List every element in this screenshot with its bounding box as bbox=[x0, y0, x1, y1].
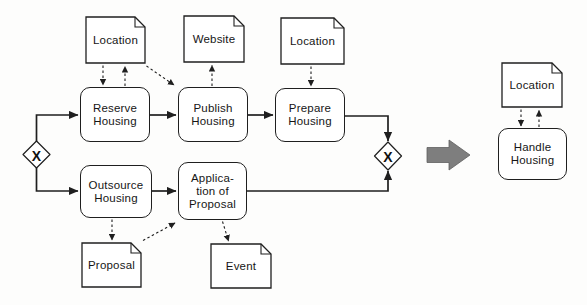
document-label: Website bbox=[183, 15, 245, 63]
task-prepare-housing: Prepare Housing bbox=[275, 88, 345, 142]
task-label-line: Housing bbox=[288, 115, 332, 128]
task-outsource-housing: Outsource Housing bbox=[80, 165, 152, 218]
flow-application-to-join bbox=[247, 171, 388, 191]
task-label-line: Outsource bbox=[89, 179, 144, 192]
document-website: Website bbox=[183, 15, 245, 63]
task-reserve-housing: Reserve Housing bbox=[80, 87, 150, 142]
document-location-top-left: Location bbox=[85, 16, 146, 64]
task-label-line: Housing bbox=[94, 192, 138, 205]
task-handle-housing: Handle Housing bbox=[498, 128, 567, 180]
document-location-top-right: Location bbox=[280, 17, 345, 65]
assoc-proposal-to-application bbox=[143, 223, 175, 241]
diagram-canvas: X X Location Website Location Proposal bbox=[0, 0, 587, 305]
document-label: Location bbox=[501, 62, 563, 108]
document-location-result: Location bbox=[501, 62, 563, 108]
task-application-of-proposal: Applica- tion of Proposal bbox=[178, 162, 247, 220]
task-label-line: Handle bbox=[514, 141, 552, 154]
assoc-application-to-event bbox=[223, 222, 229, 242]
task-label-line: Housing bbox=[191, 115, 235, 128]
document-label: Proposal bbox=[81, 242, 142, 288]
task-publish-housing: Publish Housing bbox=[178, 87, 248, 142]
task-label-line: Housing bbox=[511, 154, 555, 167]
assoc-location1-to-publish bbox=[147, 66, 175, 85]
flow-split-to-reserve-housing bbox=[37, 115, 79, 142]
xor-gateway-split: X bbox=[23, 141, 50, 168]
document-event: Event bbox=[210, 243, 272, 289]
gateway-label: X bbox=[32, 148, 42, 164]
task-label-line: Housing bbox=[93, 115, 137, 128]
document-proposal: Proposal bbox=[81, 242, 142, 288]
document-label: Location bbox=[280, 17, 345, 65]
document-label: Event bbox=[210, 243, 272, 289]
task-label-line: tion of bbox=[196, 185, 229, 198]
task-label-line: Publish bbox=[193, 102, 232, 115]
flow-prepare-to-join bbox=[345, 116, 388, 141]
flow-split-to-outsource-housing bbox=[37, 168, 79, 192]
task-label-line: Reserve bbox=[93, 102, 137, 115]
maps-to-arrow-icon bbox=[427, 140, 470, 170]
gateway-label: X bbox=[383, 149, 393, 165]
task-label-line: Prepare bbox=[289, 102, 331, 115]
task-label-line: Proposal bbox=[189, 198, 236, 211]
document-label: Location bbox=[85, 16, 146, 64]
xor-gateway-join: X bbox=[375, 142, 402, 170]
task-label-line: Applica- bbox=[191, 172, 234, 185]
